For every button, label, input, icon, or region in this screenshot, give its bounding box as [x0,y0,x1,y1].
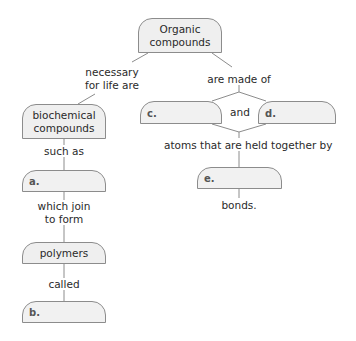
link-text: necessary [72,66,152,79]
link-such-as: such as [34,145,94,158]
link-are-made-of: are made of [199,73,279,86]
concept-map: Organic compounds necessary for life are… [0,0,356,341]
link-which-join-to-form: which join to form [24,200,104,225]
link-called: called [34,278,94,291]
link-necessary-for-life: necessary for life are [72,66,152,91]
link-and: and [226,106,254,119]
node-text: compounds [150,36,211,49]
link-text: for life are [72,79,152,92]
link-atoms-held-together-by: atoms that are held together by [164,139,314,152]
node-text: biochemical [32,109,95,122]
blank-node-b[interactable]: b. [22,301,106,323]
blank-node-c[interactable]: c. [140,101,222,124]
node-polymers: polymers [22,242,106,264]
link-bonds: bonds. [209,199,269,212]
node-biochemical-compounds: biochemical compounds [22,104,106,139]
node-organic-compounds: Organic compounds [138,18,222,53]
link-text: which join [24,200,104,213]
blank-node-d[interactable]: d. [258,101,336,124]
node-text: Organic [160,23,201,36]
blank-node-e[interactable]: e. [197,167,282,189]
link-text: to form [24,213,104,226]
blank-node-a[interactable]: a. [22,170,106,192]
node-text: compounds [34,122,95,135]
